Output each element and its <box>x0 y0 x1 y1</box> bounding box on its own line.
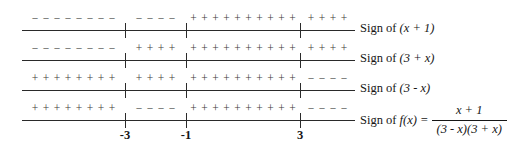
sign-segment-row-1-interval-3: ++++++++++ <box>186 10 300 28</box>
row-label-2: Sign of (3 + x) <box>360 51 434 66</box>
number-line-3 <box>22 90 355 91</box>
row-label-1-prefix: Sign of <box>360 21 400 35</box>
row-label-4-expression: f(x) = <box>400 113 429 127</box>
tick-minus-3-row-4 <box>125 113 126 128</box>
tick-3-row-1 <box>300 23 301 38</box>
tick-3-row-2 <box>300 53 301 68</box>
sign-segment-row-2-interval-2: ++++ <box>125 40 186 58</box>
sign-line-row-3: ++++++++ ++++ ++++++++++ −−−− Sign of (3… <box>0 68 525 98</box>
axis-tick-labels: -3 -1 3 <box>0 128 525 148</box>
tick-minus-3-row-2 <box>125 53 126 68</box>
row-label-3-expression: (3 - x) <box>400 81 431 95</box>
sign-segment-row-4-interval-4: −−−− <box>300 100 355 118</box>
tick-minus-1-row-3 <box>186 83 187 98</box>
sign-segment-row-2-interval-4: ++++ <box>300 40 355 58</box>
number-line-1 <box>22 30 355 31</box>
axis-label-minus-3: -3 <box>120 128 130 143</box>
tick-minus-1-row-4 <box>186 113 187 128</box>
tick-3-row-3 <box>300 83 301 98</box>
tick-minus-3-row-1 <box>125 23 126 38</box>
sign-segment-row-3-interval-4: −−−− <box>300 70 355 88</box>
number-line-4 <box>22 120 355 121</box>
sign-segment-row-2-interval-1: −−−−−−−− <box>22 40 125 58</box>
sign-segment-row-1-interval-2: −−−− <box>125 10 186 28</box>
row-label-1: Sign of (x + 1) <box>360 21 434 36</box>
sign-line-row-1: −−−−−−−− −−−− ++++++++++ ++++ Sign of (x… <box>0 8 525 38</box>
sign-segment-row-1-interval-4: ++++ <box>300 10 355 28</box>
row-label-2-prefix: Sign of <box>360 51 400 65</box>
tick-3-row-4 <box>300 113 301 128</box>
sign-segment-row-4-interval-2: −−−− <box>125 100 186 118</box>
sign-segment-row-4-interval-1: ++++++++ <box>22 100 125 118</box>
row-label-3: Sign of (3 - x) <box>360 81 430 96</box>
number-line-2 <box>22 60 355 61</box>
sign-segment-row-2-interval-3: ++++++++++ <box>186 40 300 58</box>
sign-segment-row-4-interval-3: ++++++++++ <box>186 100 300 118</box>
axis-label-3: 3 <box>297 128 303 143</box>
sign-segment-row-1-interval-1: −−−−−−−− <box>22 10 125 28</box>
row-label-2-expression: (3 + x) <box>400 51 435 65</box>
row-label-1-expression: (x + 1) <box>400 21 435 35</box>
sign-line-row-2: −−−−−−−− ++++ ++++++++++ ++++ Sign of (3… <box>0 38 525 68</box>
sign-segment-row-3-interval-2: ++++ <box>125 70 186 88</box>
row-label-4-prefix: Sign of <box>360 113 400 127</box>
tick-minus-3-row-3 <box>125 83 126 98</box>
axis-label-minus-1: -1 <box>181 128 191 143</box>
row-label-3-prefix: Sign of <box>360 81 400 95</box>
sign-segment-row-3-interval-1: ++++++++ <box>22 70 125 88</box>
sign-segment-row-3-interval-3: ++++++++++ <box>186 70 300 88</box>
fraction-numerator: x + 1 <box>432 103 507 121</box>
sign-line-row-4: ++++++++ −−−− ++++++++++ −−−− Sign of f(… <box>0 98 525 128</box>
sign-chart: −−−−−−−− −−−− ++++++++++ ++++ Sign of (x… <box>0 0 525 150</box>
tick-minus-1-row-1 <box>186 23 187 38</box>
tick-minus-1-row-2 <box>186 53 187 68</box>
